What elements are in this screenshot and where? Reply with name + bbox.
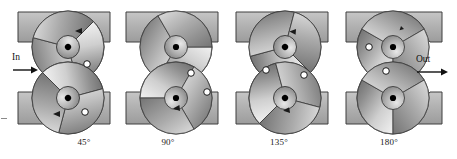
timing-mark-top-icon bbox=[188, 70, 195, 77]
timing-mark-top-icon bbox=[366, 44, 373, 51]
crop-tick-mark bbox=[1, 118, 7, 119]
timing-mark-top-icon bbox=[263, 67, 270, 74]
caption-panel-135: 135° bbox=[259, 137, 299, 147]
rotor-bottom bbox=[357, 62, 429, 134]
pump-sequence-svg bbox=[0, 0, 457, 159]
caption-panel-45: 45° bbox=[64, 137, 104, 147]
caption-panel-180: 180° bbox=[369, 137, 409, 147]
timing-mark-bottom-icon bbox=[301, 72, 308, 79]
timing-mark-top-icon bbox=[84, 61, 91, 68]
timing-mark-bottom-icon bbox=[82, 109, 89, 116]
inlet-label: In bbox=[12, 52, 20, 62]
outlet-label: Out bbox=[416, 54, 430, 64]
rotary-pump-figure bbox=[0, 0, 457, 159]
caption-panel-90: 90° bbox=[148, 137, 188, 147]
timing-mark-middle-icon bbox=[383, 68, 390, 75]
timing-mark-bottom-icon bbox=[204, 89, 211, 96]
rotor-bottom bbox=[140, 62, 212, 134]
